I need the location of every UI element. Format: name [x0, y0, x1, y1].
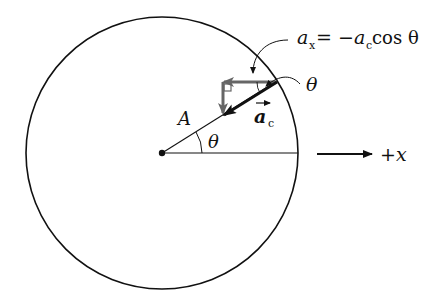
- acceleration-label: a c: [254, 103, 274, 130]
- angle-arc-center: [196, 132, 202, 153]
- right-angle-marker: [224, 84, 231, 91]
- svg-text:a: a: [354, 26, 365, 48]
- x-component-equation: a x = − a c cos θ: [297, 26, 419, 52]
- centripetal-acceleration-arrow: [224, 82, 277, 115]
- svg-text:c: c: [268, 117, 274, 130]
- point-label-A: A: [176, 108, 191, 129]
- angle-label-center: θ: [208, 131, 219, 152]
- circular-motion-diagram: A θ θ a c a x = − a c cos θ +x: [0, 0, 448, 299]
- svg-text:cos θ: cos θ: [372, 27, 419, 48]
- axis-label-plus-x: +x: [380, 143, 407, 165]
- angle-arc-at-point: [257, 82, 260, 93]
- svg-text:a: a: [254, 105, 266, 127]
- svg-text:x: x: [309, 39, 316, 52]
- svg-text:a: a: [297, 26, 308, 48]
- diagram-canvas: A θ θ a c a x = − a c cos θ +x: [0, 0, 448, 299]
- svg-text:= −: = −: [316, 26, 354, 48]
- angle-label-outer: θ: [306, 73, 318, 95]
